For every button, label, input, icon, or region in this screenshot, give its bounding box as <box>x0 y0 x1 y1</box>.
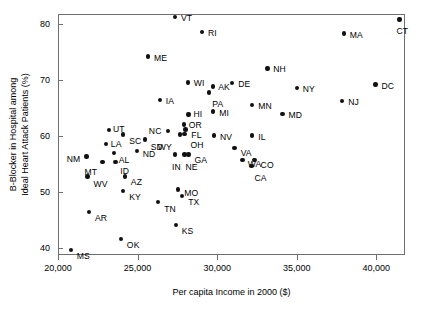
data-point-label: ME <box>154 54 167 63</box>
data-point <box>158 98 162 102</box>
x-axis-tick-label: 30,000 <box>203 264 231 273</box>
data-point-label: FL <box>191 131 201 140</box>
data-point <box>211 109 215 113</box>
data-point <box>342 31 346 35</box>
data-point-label: CA <box>254 174 266 183</box>
data-point <box>173 152 177 156</box>
y-axis-tick-label: 50 <box>40 188 50 197</box>
data-point-label: NC <box>149 127 162 136</box>
data-point <box>166 129 170 133</box>
data-point <box>250 133 254 137</box>
data-point <box>104 142 108 146</box>
data-point-label: NY <box>303 85 315 94</box>
y-axis-tick-label: 60 <box>40 132 50 141</box>
data-point <box>107 128 111 132</box>
data-point-label: KS <box>182 227 194 236</box>
data-point <box>212 133 216 137</box>
data-point-label: AZ <box>131 178 142 187</box>
data-point-label: AR <box>95 214 107 223</box>
data-point-label: ND <box>143 150 156 159</box>
data-point <box>250 103 254 107</box>
data-point <box>265 66 269 70</box>
data-point <box>123 174 127 178</box>
data-point-label: OR <box>189 121 202 130</box>
x-axis-tick-mark <box>217 255 218 260</box>
data-point-label: DE <box>238 80 250 89</box>
data-point-label: LA <box>111 140 122 149</box>
data-point-label: RI <box>208 29 217 38</box>
data-point <box>340 99 344 103</box>
data-point-label: NJ <box>348 98 359 107</box>
data-point-label: MI <box>219 109 229 118</box>
data-point <box>135 149 139 153</box>
data-point-label: NV <box>220 133 232 142</box>
data-point-label: CT <box>396 27 408 36</box>
x-axis-tick-label: 25,000 <box>124 264 152 273</box>
data-point <box>146 54 150 58</box>
data-point <box>280 112 284 116</box>
data-points-layer: VTRIMACTMENHWIDEAKPANYDCIANJMNMIMDHIORNC… <box>58 14 405 255</box>
data-point <box>186 112 190 116</box>
data-point-label: HI <box>194 110 203 119</box>
data-point <box>100 160 104 164</box>
data-point <box>182 152 186 156</box>
data-point-label: WV <box>93 180 107 189</box>
data-point-label: MA <box>350 31 363 40</box>
data-point <box>143 137 147 141</box>
data-point <box>87 210 91 214</box>
data-point-label: SC <box>129 137 141 146</box>
x-axis-title: Per capita Income in 2000 ($) <box>58 287 405 297</box>
data-point-label: TN <box>164 205 176 214</box>
data-point-label: CO <box>261 161 274 170</box>
data-point-label: IN <box>172 163 181 172</box>
data-point <box>113 160 117 164</box>
data-point <box>230 81 234 85</box>
y-axis-title-line2: Ideal Heart Attack Patients (%) <box>20 14 32 255</box>
data-point <box>249 164 253 168</box>
data-point <box>183 127 187 131</box>
data-point <box>397 17 401 21</box>
y-axis-tick-label: 40 <box>40 244 50 253</box>
data-point <box>156 200 160 204</box>
data-point <box>186 80 190 84</box>
y-axis-title: B-Blocker in Hospital among Ideal Heart … <box>8 14 36 255</box>
data-point <box>85 174 89 178</box>
y-axis-tick-label: 80 <box>40 20 50 29</box>
data-point <box>211 84 215 88</box>
x-axis-tick-label: 35,000 <box>283 264 311 273</box>
data-point-label: NM <box>67 155 81 164</box>
data-point <box>119 237 123 241</box>
x-axis-tick-mark <box>297 255 298 260</box>
data-point <box>121 189 125 193</box>
data-point-label: MS <box>77 252 90 261</box>
data-point <box>173 15 177 19</box>
data-point-label: VT <box>181 14 192 23</box>
data-point-label: IA <box>166 97 174 106</box>
data-point <box>182 132 186 136</box>
data-point-label: OH <box>191 141 204 150</box>
data-point-label: AL <box>119 156 130 165</box>
x-axis-tick-mark <box>58 255 59 260</box>
data-point-label: KY <box>129 193 141 202</box>
data-point <box>240 158 244 162</box>
data-point-label: DC <box>382 82 395 91</box>
data-point-label: TX <box>188 198 199 207</box>
scatter-chart-figure: 4050607080 20,00025,00030,00035,00040,00… <box>0 0 423 311</box>
data-point-label: NE <box>186 163 198 172</box>
data-point-label: MD <box>288 111 302 120</box>
data-point-label: WI <box>194 79 205 88</box>
data-point <box>373 82 377 86</box>
y-axis-tick-label: 70 <box>40 76 50 85</box>
x-axis-tick-label: 40,000 <box>363 264 391 273</box>
data-point-label: NH <box>273 65 286 74</box>
data-point <box>186 152 190 156</box>
data-point <box>69 248 73 252</box>
data-point <box>207 90 211 94</box>
data-point <box>178 132 182 136</box>
data-point-label: MN <box>258 102 272 111</box>
data-point <box>174 223 178 227</box>
data-point <box>232 146 236 150</box>
data-point <box>84 154 88 158</box>
data-point <box>295 86 299 90</box>
data-point-label: VA <box>241 149 252 158</box>
